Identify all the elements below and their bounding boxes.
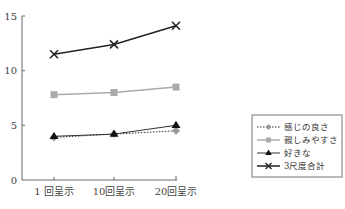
legend-label: 感じの良さ — [284, 122, 329, 132]
legend-label: 3尺度合計 — [284, 161, 325, 171]
series-friendliness — [51, 84, 180, 99]
legend-label: 好きな — [284, 148, 311, 158]
series-3-scale-total — [50, 22, 180, 59]
legend-label: 親しみやすさ — [284, 135, 338, 145]
x-tick-label: 10回呈示 — [93, 186, 136, 197]
y-tick-label: 0 — [11, 175, 17, 186]
square-marker-icon — [51, 84, 180, 99]
x-tick-label: 20回呈示 — [155, 186, 198, 197]
square-marker-icon — [266, 138, 271, 143]
x-axis: 1 回呈示 10回呈示 20回呈示 — [22, 176, 197, 197]
y-axis: 15 10 5 0 — [4, 11, 25, 186]
x-marker-icon — [50, 22, 180, 59]
legend: 感じの良さ 親しみやすさ 好きな 3尺度合計 — [252, 115, 342, 177]
y-tick-label: 10 — [4, 65, 17, 76]
y-tick-label: 5 — [11, 120, 17, 131]
line-chart: 15 10 5 0 1 回呈示 10回呈示 20回呈示 — [0, 0, 345, 209]
x-tick-label: 1 回呈示 — [34, 186, 74, 197]
y-tick-label: 15 — [4, 11, 17, 22]
